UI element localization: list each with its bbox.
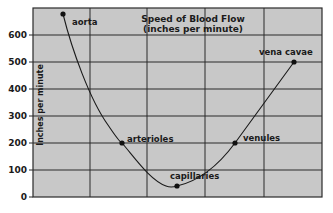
chart-svg: 0 100 200 300 400 500 600 Inches per min… bbox=[0, 0, 333, 213]
label-arterioles: arterioles bbox=[127, 134, 173, 144]
plot-area bbox=[33, 8, 322, 197]
point-capillaries bbox=[174, 183, 179, 188]
point-aorta bbox=[60, 11, 65, 16]
y-tick-200: 200 bbox=[8, 138, 27, 148]
label-capillaries: capillaries bbox=[170, 171, 219, 181]
y-tick-400: 400 bbox=[8, 84, 27, 94]
y-axis-label: Inches per minute bbox=[36, 64, 45, 146]
y-tick-500: 500 bbox=[8, 57, 27, 67]
point-venules bbox=[232, 140, 237, 145]
y-tick-600: 600 bbox=[8, 30, 27, 40]
y-tick-labels: 0 100 200 300 400 500 600 bbox=[8, 30, 27, 202]
y-tick-100: 100 bbox=[8, 165, 27, 175]
y-tick-0: 0 bbox=[21, 192, 27, 202]
y-tick-300: 300 bbox=[8, 111, 27, 121]
point-vena-cavae bbox=[291, 59, 296, 64]
label-venules: venules bbox=[243, 133, 280, 143]
point-arterioles bbox=[119, 140, 124, 145]
chart-title: Speed of Blood Flow bbox=[141, 14, 245, 24]
blood-flow-chart: 0 100 200 300 400 500 600 Inches per min… bbox=[0, 0, 333, 213]
chart-subtitle: (inches per minute) bbox=[143, 24, 243, 34]
label-aorta: aorta bbox=[72, 17, 98, 27]
label-vena-cavae: vena cavae bbox=[259, 47, 313, 57]
